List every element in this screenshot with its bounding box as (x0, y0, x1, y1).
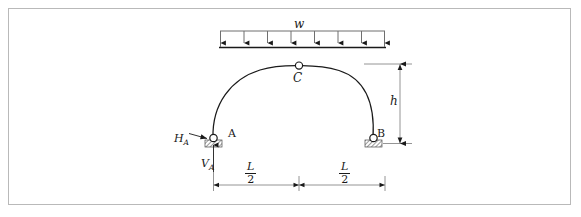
reaction-ha-arrow (189, 134, 207, 139)
arch-left-segment (213, 66, 296, 138)
reaction-label-ha: HA (174, 133, 189, 147)
crown-label-c: C (293, 72, 302, 84)
span-label-right-half: L 2 (339, 161, 350, 186)
va-subscript: A (209, 163, 214, 172)
figure-root: w C A B h HA VA L 2 L 2 (0, 0, 581, 217)
load-label-w: w (294, 18, 304, 30)
ha-subscript: A (184, 138, 189, 147)
span-label-left-half: L 2 (245, 161, 256, 186)
support-label-a: A (228, 128, 236, 139)
height-dimension-group (364, 64, 412, 144)
span-right-denominator: 2 (339, 173, 350, 187)
arch-diagram (0, 0, 581, 217)
distributed-load-group (219, 31, 386, 48)
crown-hinge-circle (295, 62, 302, 69)
height-label-h: h (390, 95, 398, 107)
span-left-numerator: L (245, 161, 256, 173)
reaction-label-va: VA (201, 158, 214, 172)
reaction-ha-group (189, 134, 207, 139)
support-label-b: B (377, 128, 385, 139)
dim-arrow-left-end (294, 183, 299, 187)
support-a-pin-circle (210, 134, 217, 141)
dim-arrow-left-start (214, 183, 219, 187)
h-arrow-top (398, 64, 403, 70)
dim-arrow-right-start (299, 183, 304, 187)
load-arrows (221, 31, 385, 43)
span-left-denominator: 2 (245, 173, 256, 187)
span-dimension-group (214, 172, 386, 191)
va-base: V (201, 157, 209, 170)
h-arrow-bottom (398, 138, 403, 144)
arch-right-segment (302, 66, 373, 138)
dim-arrow-right-end (380, 183, 385, 187)
ha-base: H (174, 132, 184, 145)
crown-hinge-group (295, 62, 302, 69)
span-right-numerator: L (339, 161, 350, 173)
